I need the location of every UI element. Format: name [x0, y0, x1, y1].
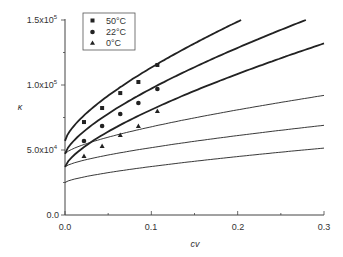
data-point-triangle — [155, 109, 160, 114]
data-point-triangle — [81, 153, 86, 158]
chart: 0.0 5.0x104 1.0x105 1.5x105 0.0 0.1 0.2 … — [0, 0, 343, 257]
legend-label-22c: 22°C — [106, 27, 127, 37]
legend: 50°C 22°C 0°C — [83, 13, 135, 50]
data-point-triangle — [136, 123, 141, 128]
x-tick-label-3: 0.3 — [318, 222, 331, 232]
data-point-square — [118, 91, 122, 95]
x-tick-label-0: 0.0 — [59, 222, 72, 232]
x-ticks — [65, 211, 324, 215]
x-tick-label-1: 0.1 — [145, 222, 158, 232]
legend-circle-marker — [90, 30, 95, 35]
y-tick-label-2: 1.0x105 — [27, 79, 58, 90]
y-tick-label-3: 1.5x105 — [27, 14, 58, 25]
data-point-circle — [82, 139, 87, 144]
legend-label-50c: 50°C — [106, 16, 127, 26]
legend-square-marker — [91, 19, 95, 23]
data-point-circle — [136, 101, 141, 106]
data-point-square — [136, 80, 140, 84]
data-point-square — [155, 63, 159, 67]
y-tick-label-0: 0.0 — [46, 210, 59, 220]
y-tick-label-1: 5.0x104 — [27, 144, 58, 155]
fit-curve — [65, 125, 324, 167]
x-tick-label-2: 0.2 — [232, 222, 245, 232]
legend-label-0c: 0°C — [106, 38, 122, 48]
data-point-triangle — [100, 143, 105, 148]
data-point-circle — [155, 87, 160, 92]
fit-curve — [65, 43, 324, 166]
x-axis-title: cv — [191, 239, 201, 249]
y-axis-title: κ — [18, 102, 23, 112]
data-point-square — [82, 120, 86, 124]
data-point-circle — [100, 124, 105, 129]
data-point-square — [100, 106, 104, 110]
data-point-circle — [118, 112, 123, 117]
y-ticks — [61, 20, 65, 215]
fit-curve — [65, 148, 324, 182]
